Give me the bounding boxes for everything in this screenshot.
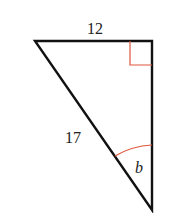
angle-arc-b <box>115 145 152 156</box>
right-triangle <box>35 41 152 210</box>
angle-label: b <box>135 159 143 176</box>
hypotenuse-label: 17 <box>65 129 81 146</box>
triangle-diagram: 12 17 b <box>0 0 173 213</box>
top-side-label: 12 <box>87 20 103 37</box>
right-angle-marker <box>130 41 152 65</box>
